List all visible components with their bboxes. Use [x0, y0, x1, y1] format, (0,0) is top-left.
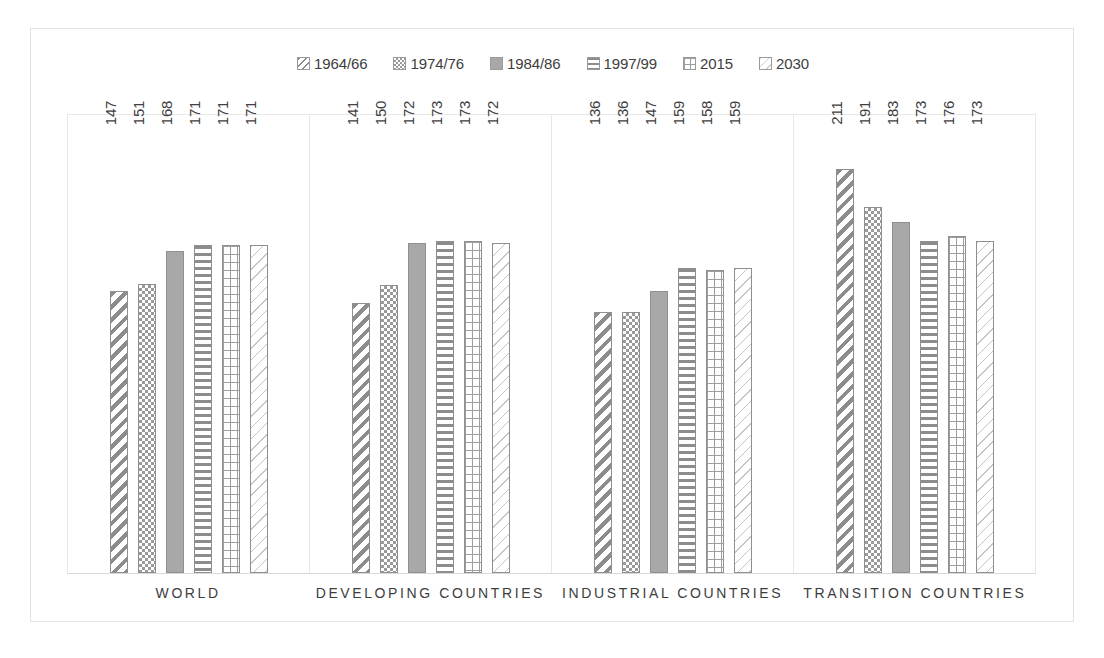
bar-world-1974-76[interactable]: 151	[138, 115, 156, 573]
bar-value-label: 136	[614, 101, 631, 125]
bar-value-label: 150	[372, 101, 389, 125]
bar-value-label: 158	[698, 101, 715, 125]
legend-swatch-checkerboard-icon	[393, 57, 406, 70]
bar-value-label: 159	[670, 101, 687, 125]
bar-rect: 150	[380, 285, 398, 573]
bar-value-label: 172	[484, 101, 501, 125]
bar-value-label: 211	[828, 101, 845, 124]
bar-industrial-countries-2030[interactable]: 159	[734, 115, 752, 573]
bar-industrial-countries-1974-76[interactable]: 136	[622, 115, 640, 573]
bar-transition-countries-1984-86[interactable]: 183	[892, 115, 910, 573]
legend-label: 1974/76	[410, 55, 464, 72]
bar-world-1984-86[interactable]: 168	[166, 115, 184, 573]
chart-frame: 1964/661974/761984/861997/9920152030 147…	[30, 28, 1074, 622]
bar-value-label: 173	[428, 101, 445, 125]
bar-value-label: 141	[344, 101, 361, 125]
bar-developing-countries-2030[interactable]: 172	[492, 115, 510, 573]
bar-rect: 158	[706, 270, 724, 573]
bar-rect: 168	[166, 251, 184, 573]
bar-rect: 173	[436, 241, 454, 573]
category-label-developing-countries: DEVELOPING COUNTRIES	[309, 585, 551, 601]
bar-rect: 191	[864, 207, 882, 573]
bar-rect: 136	[594, 312, 612, 573]
bar-industrial-countries-1997-99[interactable]: 159	[678, 115, 696, 573]
bar-transition-countries-1964-66[interactable]: 211	[836, 115, 854, 573]
bar-value-label: 173	[912, 101, 929, 125]
bar-rect: 172	[492, 243, 510, 573]
bar-rect: 173	[464, 241, 482, 573]
category-axis: WORLDDEVELOPING COUNTRIESINDUSTRIAL COUN…	[67, 585, 1036, 601]
category-label-world: WORLD	[67, 585, 309, 601]
bar-developing-countries-1964-66[interactable]: 141	[352, 115, 370, 573]
bar-world-1997-99[interactable]: 171	[194, 115, 212, 573]
bar-group-world: 147151168171171171	[68, 115, 310, 573]
plot-area: 1471511681711711711411501721731731721361…	[67, 114, 1036, 574]
bar-value-label: 147	[642, 101, 659, 125]
legend-swatch-horizontal-stripes-icon	[587, 57, 600, 70]
bar-value-label: 171	[186, 101, 203, 125]
bar-transition-countries-2015[interactable]: 176	[948, 115, 966, 573]
bar-value-label: 173	[456, 101, 473, 125]
bar-world-2030[interactable]: 171	[250, 115, 268, 573]
bar-rect: 159	[678, 268, 696, 573]
bar-rect: 151	[138, 284, 156, 573]
bar-group-industrial-countries: 136136147159158159	[552, 115, 794, 573]
legend-item-1974-76[interactable]: 1974/76	[393, 55, 464, 72]
legend-label: 2030	[776, 55, 809, 72]
bar-rect: 147	[110, 291, 128, 573]
bar-value-label: 183	[884, 101, 901, 125]
bar-rect: 171	[194, 245, 212, 573]
bar-value-label: 171	[242, 101, 259, 125]
bar-transition-countries-1997-99[interactable]: 173	[920, 115, 938, 573]
bar-developing-countries-1997-99[interactable]: 173	[436, 115, 454, 573]
bar-rect: 171	[222, 245, 240, 573]
bar-rect: 141	[352, 303, 370, 573]
bar-rect: 171	[250, 245, 268, 573]
bar-world-2015[interactable]: 171	[222, 115, 240, 573]
bar-transition-countries-2030[interactable]: 173	[976, 115, 994, 573]
bar-industrial-countries-2015[interactable]: 158	[706, 115, 724, 573]
legend-label: 1964/66	[314, 55, 368, 72]
legend-item-1984-86[interactable]: 1984/86	[490, 55, 561, 72]
bar-world-1964-66[interactable]: 147	[110, 115, 128, 573]
bar-group-transition-countries: 211191183173176173	[794, 115, 1035, 573]
legend-item-2030[interactable]: 2030	[759, 55, 809, 72]
bar-rect: 211	[836, 169, 854, 573]
bar-developing-countries-1984-86[interactable]: 172	[408, 115, 426, 573]
bar-value-label: 172	[400, 101, 417, 125]
bar-rect: 172	[408, 243, 426, 573]
bar-rect: 136	[622, 312, 640, 573]
bar-value-label: 151	[130, 101, 147, 125]
bar-rect: 183	[892, 222, 910, 573]
bar-developing-countries-1974-76[interactable]: 150	[380, 115, 398, 573]
bar-value-label: 176	[940, 101, 957, 125]
bar-transition-countries-1974-76[interactable]: 191	[864, 115, 882, 573]
bar-value-label: 191	[856, 101, 873, 125]
legend-swatch-solid-gray-icon	[490, 57, 503, 70]
bar-value-label: 168	[158, 101, 175, 125]
chart-legend: 1964/661974/761984/861997/9920152030	[31, 55, 1075, 72]
bar-rect: 173	[920, 241, 938, 573]
bar-rect: 173	[976, 241, 994, 573]
bar-developing-countries-2015[interactable]: 173	[464, 115, 482, 573]
legend-swatch-grid-icon	[683, 57, 696, 70]
bar-group-developing-countries: 141150172173173172	[310, 115, 552, 573]
bar-industrial-countries-1984-86[interactable]: 147	[650, 115, 668, 573]
legend-item-1964-66[interactable]: 1964/66	[297, 55, 368, 72]
legend-item-2015[interactable]: 2015	[683, 55, 733, 72]
category-label-transition-countries: TRANSITION COUNTRIES	[794, 585, 1036, 601]
bar-value-label: 136	[586, 101, 603, 125]
legend-item-1997-99[interactable]: 1997/99	[587, 55, 658, 72]
bar-value-label: 173	[968, 101, 985, 125]
legend-swatch-diagonal-stripes-icon	[297, 57, 310, 70]
bar-value-label: 171	[214, 101, 231, 125]
bar-industrial-countries-1964-66[interactable]: 136	[594, 115, 612, 573]
legend-label: 1984/86	[507, 55, 561, 72]
bar-rect: 147	[650, 291, 668, 573]
bar-rect: 176	[948, 236, 966, 573]
bar-value-label: 159	[726, 101, 743, 125]
legend-swatch-light-wave-icon	[759, 57, 772, 70]
bar-rect: 159	[734, 268, 752, 573]
category-label-industrial-countries: INDUSTRIAL COUNTRIES	[552, 585, 794, 601]
legend-label: 1997/99	[604, 55, 658, 72]
